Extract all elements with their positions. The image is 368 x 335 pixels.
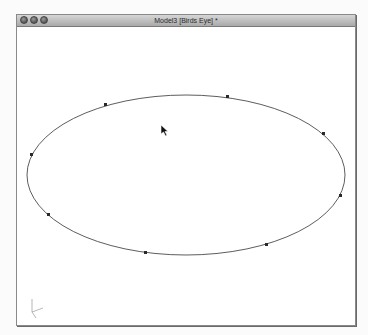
control-point[interactable] [265, 243, 268, 246]
ellipse-curve[interactable] [27, 95, 345, 255]
birds-eye-viewport[interactable] [17, 27, 355, 325]
axes-gizmo [32, 299, 43, 318]
x-axis [32, 308, 43, 312]
arrow-cursor-icon [161, 125, 171, 137]
control-point[interactable] [226, 95, 229, 98]
control-point[interactable] [47, 213, 50, 216]
control-point[interactable] [104, 103, 107, 106]
control-points [30, 95, 342, 254]
control-point[interactable] [322, 132, 325, 135]
model-window: Model3 [Birds Eye] * [16, 14, 356, 326]
control-point[interactable] [144, 251, 147, 254]
control-point[interactable] [30, 153, 33, 156]
title-bar[interactable]: Model3 [Birds Eye] * [17, 15, 355, 27]
window-title: Model3 [Birds Eye] * [17, 15, 355, 26]
control-point[interactable] [339, 194, 342, 197]
viewport-drawing [17, 27, 355, 325]
z-axis [32, 312, 36, 318]
